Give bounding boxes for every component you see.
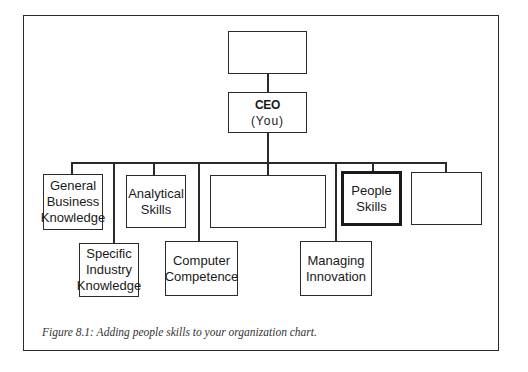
drop-right-blank: [445, 162, 447, 172]
box-line: Knowledge: [77, 278, 141, 294]
drop-analytical: [153, 162, 155, 175]
ceo-title: CEO: [255, 97, 280, 113]
box-line: General: [50, 178, 96, 194]
box-line: Managing: [307, 253, 364, 269]
box-line: Computer: [173, 253, 230, 269]
box-computer-competence: Computer Competence: [165, 241, 238, 296]
drop-specific: [113, 162, 115, 243]
box-line: Industry: [86, 262, 132, 278]
connector-bus: [71, 162, 446, 164]
top-blank-box: [228, 31, 307, 74]
ceo-subtitle: (You): [251, 113, 284, 129]
box-line: People: [351, 183, 391, 199]
box-blank-wide: [210, 175, 326, 228]
drop-general: [71, 162, 73, 174]
drop-managing: [335, 162, 337, 241]
box-line: Innovation: [306, 269, 366, 285]
connector-top-to-ceo: [267, 74, 269, 92]
box-line: Competence: [165, 269, 239, 285]
box-general-business-knowledge: General Business Knowledge: [43, 174, 103, 230]
box-line: Specific: [86, 246, 132, 262]
connector-ceo-trunk: [267, 133, 269, 175]
box-line: Analytical: [128, 186, 184, 202]
drop-computer: [198, 162, 200, 241]
box-line: Skills: [141, 202, 171, 218]
box-blank-right: [411, 172, 482, 225]
box-managing-innovation: Managing Innovation: [300, 241, 372, 296]
box-people-skills: People Skills: [341, 171, 402, 226]
box-specific-industry-knowledge: Specific Industry Knowledge: [79, 243, 139, 297]
figure-caption: Figure 8.1: Adding people skills to your…: [42, 326, 317, 338]
box-line: Skills: [356, 199, 386, 215]
ceo-box: CEO (You): [228, 92, 307, 133]
drop-people: [372, 162, 374, 171]
box-line: Knowledge: [41, 210, 105, 226]
box-line: Business: [47, 194, 100, 210]
box-analytical-skills: Analytical Skills: [126, 175, 186, 228]
